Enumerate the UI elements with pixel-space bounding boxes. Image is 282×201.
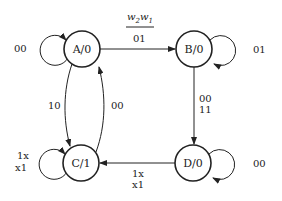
state-D: D/0 [175, 145, 211, 181]
state-C: C/1 [63, 145, 99, 181]
transition-label: 11 [199, 104, 212, 115]
transition-B-B: 01 [210, 36, 266, 66]
transition-label: 01 [253, 44, 266, 55]
state-B: B/0 [176, 31, 212, 67]
transition-label: 00 [253, 158, 266, 169]
state-label: D/0 [183, 157, 203, 170]
transition-A-B: 01 [100, 33, 175, 49]
transition-A-A: 00 [14, 35, 68, 65]
transition-D-C: 1x x1 [100, 163, 175, 190]
transition-label: 00 [199, 93, 212, 104]
transition-C-A: 00 [96, 67, 124, 152]
transition-D-D: 00 [209, 150, 266, 180]
state-label: B/0 [185, 43, 204, 56]
transition-label: 10 [48, 100, 61, 111]
transition-label: 00 [111, 100, 124, 111]
transition-B-D: 00 11 [194, 67, 212, 144]
state-label: A/0 [72, 43, 92, 56]
input-variables-label: w2w1 [126, 11, 154, 27]
transition-label: 01 [133, 33, 146, 44]
transition-A-C: 10 [48, 64, 72, 146]
transition-label: 1x [17, 150, 29, 161]
state-label: C/1 [71, 157, 90, 170]
transition-C-C: 1x x1 [15, 149, 67, 179]
transition-label: 00 [14, 43, 27, 54]
state-A: A/0 [64, 31, 100, 67]
svg-text:w2w1: w2w1 [127, 11, 153, 25]
transition-label: x1 [15, 162, 27, 173]
transition-label: x1 [132, 179, 144, 190]
state-diagram: w2w1 00 01 01 00 11 00 1x x1 1x x1 [0, 0, 282, 201]
transition-label: 1x [132, 168, 144, 179]
